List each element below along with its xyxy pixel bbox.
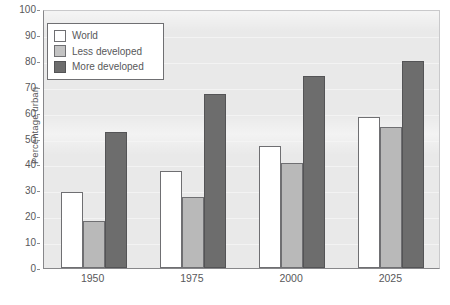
legend-label: Less developed bbox=[72, 46, 142, 57]
y-tick-label-0: 0 bbox=[30, 264, 36, 274]
bar-1975-world bbox=[160, 171, 182, 268]
y-tick-label-10: 10 bbox=[25, 238, 36, 248]
y-tick-mark bbox=[37, 217, 40, 218]
bar-2000-more-developed bbox=[303, 76, 325, 268]
y-tick-label-90: 90 bbox=[25, 31, 36, 41]
bar-1975-less-developed bbox=[182, 197, 204, 268]
bar-2025-more-developed bbox=[402, 61, 424, 268]
bar-2000-less-developed bbox=[281, 163, 303, 268]
legend-label: World bbox=[72, 30, 98, 41]
y-tick-mark bbox=[37, 88, 40, 89]
x-tick-label-2025: 2025 bbox=[379, 272, 402, 284]
bar-1950-more-developed bbox=[105, 132, 127, 268]
bar-1975-more-developed bbox=[204, 94, 226, 268]
y-tick-mark bbox=[37, 114, 40, 115]
gridline bbox=[44, 115, 439, 116]
x-tick-label-1950: 1950 bbox=[81, 272, 104, 284]
gridline bbox=[44, 89, 439, 90]
gridline bbox=[44, 11, 439, 12]
y-tick-mark bbox=[37, 243, 40, 244]
legend-swatch-icon bbox=[54, 45, 66, 57]
chart-legend: WorldLess developedMore developed bbox=[47, 23, 164, 80]
bar-1950-less-developed bbox=[83, 221, 105, 268]
x-tick-label-2000: 2000 bbox=[279, 272, 302, 284]
y-tick-label-40: 40 bbox=[25, 160, 36, 170]
y-tick-mark bbox=[37, 191, 40, 192]
y-tick-mark bbox=[37, 10, 40, 11]
y-tick-mark bbox=[37, 140, 40, 141]
y-tick-label-70: 70 bbox=[25, 83, 36, 93]
bar-2025-world bbox=[358, 117, 380, 269]
y-tick-mark bbox=[37, 36, 40, 37]
legend-entry-more-developed: More developed bbox=[54, 59, 158, 75]
y-tick-label-50: 50 bbox=[25, 135, 36, 145]
legend-swatch-icon bbox=[54, 61, 66, 73]
legend-entry-world: World bbox=[54, 28, 158, 44]
x-axis-tick-labels: 1950197520002025 bbox=[43, 272, 440, 288]
y-tick-mark bbox=[37, 269, 40, 270]
y-axis-tick-labels: 0102030405060708090100 bbox=[0, 10, 40, 269]
y-tick-label-80: 80 bbox=[25, 57, 36, 67]
legend-swatch-icon bbox=[54, 30, 66, 42]
bar-2025-less-developed bbox=[380, 127, 402, 268]
x-tick-label-1975: 1975 bbox=[180, 272, 203, 284]
y-tick-mark bbox=[37, 165, 40, 166]
y-tick-label-30: 30 bbox=[25, 186, 36, 196]
legend-entry-less-developed: Less developed bbox=[54, 44, 158, 60]
legend-label: More developed bbox=[72, 61, 144, 72]
figure-caption bbox=[70, 297, 400, 305]
y-tick-mark bbox=[37, 62, 40, 63]
y-tick-label-60: 60 bbox=[25, 109, 36, 119]
bar-2000-world bbox=[259, 146, 281, 268]
y-tick-label-100: 100 bbox=[19, 5, 36, 15]
urbanization-bar-chart: Percentage urban 0102030405060708090100 … bbox=[0, 0, 450, 305]
y-tick-label-20: 20 bbox=[25, 212, 36, 222]
bar-1950-world bbox=[61, 192, 83, 268]
